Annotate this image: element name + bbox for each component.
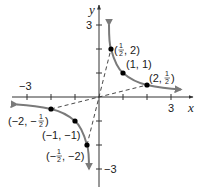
svg-text:(2,: (2, xyxy=(149,72,162,84)
annotation-neg2-neghalf: (−2, − 1 2 ) xyxy=(8,113,49,128)
svg-text:, −2): , −2) xyxy=(62,150,84,162)
tick-label-x-neg3: −3 xyxy=(19,80,32,92)
svg-text:1: 1 xyxy=(39,113,43,120)
point-neghalf-neg2 xyxy=(84,142,89,147)
svg-text:(: ( xyxy=(114,44,118,56)
tick-label-y-neg3: −3 xyxy=(104,163,117,175)
svg-text:, 2): , 2) xyxy=(124,44,140,56)
tick-label-x-3: 3 xyxy=(168,102,174,114)
svg-text:): ) xyxy=(171,72,175,84)
reciprocal-function-graph: y x 3 −3 3 −3 ( 1 2 , 2) (1, 1) (2, 1 2 … xyxy=(0,0,200,190)
y-axis-label: y xyxy=(87,2,95,17)
svg-text:2: 2 xyxy=(165,78,169,85)
svg-text:(−2, −: (−2, − xyxy=(8,115,37,127)
annotation-half-2: ( 1 2 , 2) xyxy=(114,42,140,57)
svg-text:2: 2 xyxy=(119,50,123,57)
annotation-neghalf-neg2: (− 1 2 , −2) xyxy=(46,148,84,163)
tick-label-y-3: 3 xyxy=(86,19,92,31)
svg-text:1: 1 xyxy=(57,148,61,155)
point-neg2-neghalf xyxy=(48,106,53,111)
point-neg1-neg1 xyxy=(72,118,77,123)
svg-text:2: 2 xyxy=(57,156,61,163)
annotation-2-half: (2, 1 2 ) xyxy=(149,70,175,85)
svg-text:1: 1 xyxy=(119,42,123,49)
svg-text:): ) xyxy=(45,115,49,127)
annotation-1-1: (1, 1) xyxy=(126,58,152,70)
annotation-neg1-neg1: (−1, −1) xyxy=(42,129,81,141)
point-1-1 xyxy=(120,70,125,75)
svg-text:(−: (− xyxy=(46,150,56,162)
x-axis-label: x xyxy=(187,100,194,115)
point-half-2 xyxy=(108,46,113,51)
svg-text:2: 2 xyxy=(39,121,43,128)
svg-text:1: 1 xyxy=(165,70,169,77)
